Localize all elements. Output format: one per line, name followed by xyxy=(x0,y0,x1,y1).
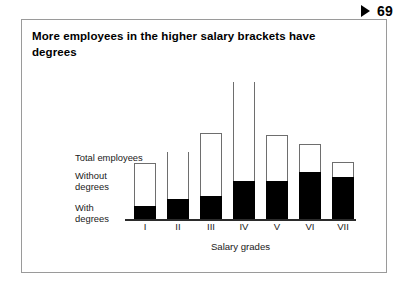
x-tick-VI: VI xyxy=(295,222,325,233)
x-tick-I: I xyxy=(130,222,160,233)
bar-chart: Total employees Without degrees With deg… xyxy=(21,19,387,273)
bar-fill-with-degrees xyxy=(134,206,156,219)
x-tick-III: III xyxy=(196,222,226,233)
legend-label-with-degrees: With degrees xyxy=(75,202,109,225)
bar-V xyxy=(266,135,288,219)
bar-II xyxy=(167,152,189,219)
bar-III xyxy=(200,133,222,219)
bar-I xyxy=(134,163,156,219)
bar-fill-with-degrees xyxy=(200,196,222,219)
bar-fill-with-degrees xyxy=(299,172,321,219)
x-axis-label: Salary grades xyxy=(125,241,356,252)
bar-VI xyxy=(299,144,321,219)
legend-label-without-degrees: Without degrees xyxy=(75,170,109,193)
page-number: 69 xyxy=(377,4,393,18)
bar-fill-with-degrees xyxy=(233,181,255,219)
bar-fill-with-degrees xyxy=(167,199,189,219)
bars-container xyxy=(125,59,356,219)
page-marker: 69 xyxy=(361,2,393,20)
x-tick-VII: VII xyxy=(328,222,358,233)
bar-fill-with-degrees xyxy=(266,181,288,219)
bar-fill-with-degrees xyxy=(332,177,354,219)
bar-IV xyxy=(233,82,255,219)
x-tick-V: V xyxy=(262,222,292,233)
x-tick-IV: IV xyxy=(229,222,259,233)
play-triangle-icon xyxy=(361,5,370,17)
bar-VII xyxy=(332,162,354,219)
x-tick-II: II xyxy=(163,222,193,233)
